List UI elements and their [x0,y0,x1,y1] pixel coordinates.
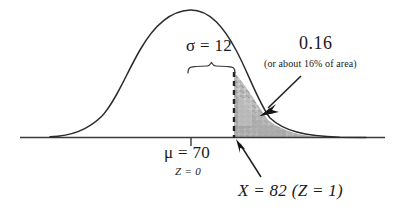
normal-curve [50,10,366,137]
sigma-label: σ = 12 [186,36,232,56]
tail-probability-label: 0.16 [299,33,333,54]
mean-zscore-label: Z = 0 [175,165,201,177]
tail-callout-arrow [260,76,301,116]
sigma-brace [188,63,235,74]
mean-label: μ = 70 [164,143,210,163]
tail-probability-note: (or about 16% of area) [264,58,357,69]
shaded-tail-area [232,70,328,140]
cutoff-callout-arrow [236,139,261,177]
cutoff-label: X = 82 (Z = 1) [238,181,343,201]
